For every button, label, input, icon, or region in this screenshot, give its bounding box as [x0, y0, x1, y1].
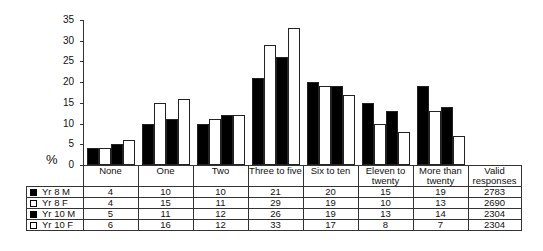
bar-yr-8-f-three-to-five: [264, 45, 276, 165]
header-one: One: [138, 166, 193, 187]
bar-yr-8-f-two: [209, 119, 221, 165]
y-tick-label: 30: [54, 35, 74, 46]
table-cell: 5: [83, 209, 138, 220]
table-cell: 6: [83, 220, 138, 231]
legend-cell: Yr 10 F: [27, 220, 84, 231]
bar-yr-8-f-eleven-to-twenty: [374, 124, 386, 165]
bar-yr-10-f-three-to-five: [288, 28, 300, 165]
y-tick-label: 20: [54, 76, 74, 87]
table-cell: 21: [248, 187, 303, 198]
table-cell: 26: [248, 209, 303, 220]
table-cell: 11: [193, 198, 248, 209]
legend-label: Yr 10 M: [42, 208, 75, 219]
bar-yr-8-f-more-than-twenty: [429, 111, 441, 165]
y-tick-mark: [80, 20, 84, 21]
bar-yr-10-f-two: [233, 115, 245, 165]
bar-yr-10-m-eleven-to-twenty: [386, 111, 398, 165]
table-cell: 10: [193, 187, 248, 198]
y-tick-label: 15: [54, 97, 74, 108]
legend-cell: Yr 8 F: [27, 198, 84, 209]
y-tick-label: 10: [54, 118, 74, 129]
header-eleven-to-twenty: Eleven to twenty: [358, 166, 413, 187]
bar-yr-10-f-six-to-ten: [343, 95, 355, 165]
table-cell: 13: [413, 198, 468, 209]
table-cell: 2304: [468, 220, 521, 231]
table-cell: 12: [193, 220, 248, 231]
legend-label: Yr 8 M: [42, 186, 70, 197]
legend-label: Yr 10 F: [42, 219, 73, 230]
y-tick-mark: [80, 103, 84, 104]
legend-label: Yr 8 F: [42, 197, 68, 208]
table-cell: 19: [303, 198, 358, 209]
table-cell: 2304: [468, 209, 521, 220]
table-row: Yr 10 F616123317872304: [27, 220, 522, 231]
header-none: None: [83, 166, 138, 187]
table-cell: 33: [248, 220, 303, 231]
table-cell: 10: [358, 198, 413, 209]
bar-yr-10-m-three-to-five: [276, 57, 288, 165]
legend-swatch-icon: [30, 189, 37, 196]
header-two: Two: [193, 166, 248, 187]
legend-swatch-icon: [30, 222, 37, 229]
table-cell: 20: [303, 187, 358, 198]
legend-cell: Yr 10 M: [27, 209, 84, 220]
y-tick-mark: [80, 144, 84, 145]
table-row: Yr 8 F41511291910132690: [27, 198, 522, 209]
y-tick-mark: [80, 82, 84, 83]
table-corner-cell: [27, 166, 84, 187]
table-cell: 14: [413, 209, 468, 220]
legend-swatch-icon: [30, 211, 37, 218]
header-three-to-five: Three to five: [248, 166, 303, 187]
bar-yr-8-m-none: [87, 148, 99, 165]
bar-yr-8-m-eleven-to-twenty: [362, 103, 374, 165]
header-valid-responses: Valid responses: [468, 166, 521, 187]
data-table: None One Two Three to five Six to ten El…: [26, 165, 522, 231]
bar-yr-10-f-eleven-to-twenty: [398, 132, 410, 165]
bar-yr-8-f-none: [99, 148, 111, 165]
bar-yr-10-f-one: [178, 99, 190, 165]
table-cell: 2690: [468, 198, 521, 209]
bar-yr-10-m-two: [221, 115, 233, 165]
table-cell: 13: [358, 209, 413, 220]
table-cell: 15: [358, 187, 413, 198]
legend-cell: Yr 8 M: [27, 187, 84, 198]
bar-yr-10-f-more-than-twenty: [453, 136, 465, 165]
bar-yr-8-m-one: [142, 124, 154, 165]
table-row: Yr 8 M41010212015192783: [27, 187, 522, 198]
table-header-row: None One Two Three to five Six to ten El…: [27, 166, 522, 187]
y-tick-label: 35: [54, 14, 74, 25]
table-cell: 11: [138, 209, 193, 220]
y-tick-label: 25: [54, 55, 74, 66]
table-cell: 4: [83, 187, 138, 198]
header-six-to-ten: Six to ten: [303, 166, 358, 187]
header-more-than-twenty: More than twenty: [413, 166, 468, 187]
y-tick-mark: [80, 61, 84, 62]
table-cell: 19: [413, 187, 468, 198]
table-row: Yr 10 M51112261913142304: [27, 209, 522, 220]
legend-swatch-icon: [30, 200, 37, 207]
table-cell: 15: [138, 198, 193, 209]
bar-yr-8-m-three-to-five: [252, 78, 264, 165]
bar-yr-10-m-one: [166, 119, 178, 165]
bar-yr-8-f-one: [154, 103, 166, 165]
bar-yr-10-f-none: [123, 140, 135, 165]
table-cell: 4: [83, 198, 138, 209]
bar-yr-8-m-more-than-twenty: [417, 86, 429, 165]
table-cell: 7: [413, 220, 468, 231]
table-cell: 10: [138, 187, 193, 198]
y-tick-mark: [80, 124, 84, 125]
bar-yr-10-m-more-than-twenty: [441, 107, 453, 165]
table-cell: 16: [138, 220, 193, 231]
bar-yr-8-f-six-to-ten: [319, 86, 331, 165]
table-cell: 29: [248, 198, 303, 209]
table-cell: 8: [358, 220, 413, 231]
table-cell: 2783: [468, 187, 521, 198]
table-cell: 17: [303, 220, 358, 231]
bar-yr-10-m-six-to-ten: [331, 86, 343, 165]
y-tick-mark: [80, 41, 84, 42]
bar-yr-8-m-six-to-ten: [307, 82, 319, 165]
table-cell: 12: [193, 209, 248, 220]
bar-yr-8-m-two: [197, 124, 209, 165]
table-cell: 19: [303, 209, 358, 220]
y-tick-label: 5: [54, 138, 74, 149]
